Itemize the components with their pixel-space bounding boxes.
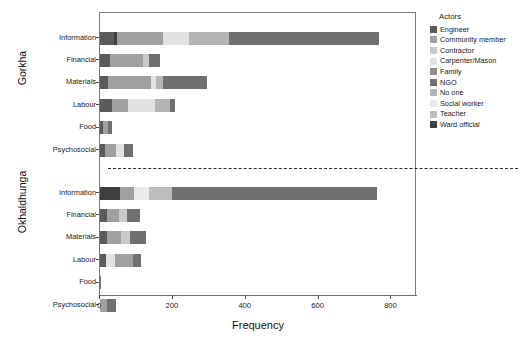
y-tick-label-food: Food [4, 277, 96, 286]
bar-okhaldhunga-food [100, 276, 101, 289]
legend-item-community-member[interactable]: Community member [430, 35, 518, 46]
x-axis-line [99, 295, 417, 296]
bar-segment-carpenter-mason [163, 32, 189, 45]
legend-swatch-icon [430, 47, 437, 54]
legend-swatch-icon [430, 68, 437, 75]
bar-segment-contractor [119, 209, 127, 222]
legend-items: EngineerCommunity memberContractorCarpen… [430, 24, 518, 130]
bar-segment-engineer [100, 99, 112, 112]
bar-okhaldhunga-information [100, 187, 377, 200]
bar-segment-ngo [163, 76, 207, 89]
legend-label: Community member [440, 36, 506, 43]
bar-segment-social-worker [134, 187, 149, 200]
bar-segment-ngo [133, 254, 141, 267]
bar-gorkha-materials [100, 76, 207, 89]
bar-gorkha-information [100, 32, 379, 45]
legend-swatch-icon [430, 36, 437, 43]
legend-item-contractor[interactable]: Contractor [430, 45, 518, 56]
legend-item-family[interactable]: Family [430, 66, 518, 77]
bar-segment-carpenter-mason [106, 254, 115, 267]
legend-swatch-icon [430, 26, 437, 33]
bar-okhaldhunga-psychosocial [100, 299, 116, 312]
bar-segment-ngo [124, 144, 133, 157]
legend-item-ngo[interactable]: NGO [430, 77, 518, 88]
bar-segment-engineer [100, 76, 108, 89]
legend-swatch-icon [430, 79, 437, 86]
bar-segment-teacher [149, 187, 172, 200]
legend-label: Contractor [440, 47, 474, 54]
x-tick-mark [99, 295, 100, 299]
x-axis-title: Frequency [99, 319, 417, 331]
legend-swatch-icon [430, 58, 437, 65]
bar-gorkha-labour [100, 99, 175, 112]
x-tick-label-200: 200 [166, 301, 179, 310]
bar-segment-community-member [112, 99, 128, 112]
legend-label: NGO [440, 79, 457, 86]
bar-segment-community-member [117, 32, 163, 45]
y-axis: InformationFinancialMaterialsLabourFoodP… [0, 12, 96, 295]
legend-item-ward-official[interactable]: Ward official [430, 119, 518, 130]
legend-swatch-icon [430, 100, 437, 107]
legend-item-teacher[interactable]: Teacher [430, 109, 518, 120]
y-tick-label-psychosocial: Psychosocial [4, 145, 96, 154]
bar-segment-community-member [107, 231, 121, 244]
bar-okhaldhunga-financial [100, 209, 140, 222]
x-tick-label-800: 800 [384, 301, 397, 310]
facet-label-okhaldhunga: Okhaldhunga [16, 159, 28, 245]
bar-segment-ngo [170, 99, 175, 112]
legend-title: Actors [439, 12, 518, 21]
bar-segment-engineer [100, 231, 107, 244]
bar-gorkha-food [100, 121, 112, 134]
x-tick-mark [172, 295, 173, 299]
plot-area [99, 12, 416, 295]
legend: Actors EngineerCommunity memberContracto… [430, 12, 518, 130]
bar-segment-contractor [121, 231, 130, 244]
bar-segment-ward-official [100, 187, 120, 200]
bar-segment-ngo [229, 32, 378, 45]
facet-divider [108, 168, 518, 169]
bars-container [100, 13, 415, 295]
legend-label: Ward official [440, 121, 480, 128]
bar-segment-community-member [115, 254, 132, 267]
bar-segment-carpenter-mason [128, 99, 155, 112]
legend-item-no-one[interactable]: No one [430, 88, 518, 99]
bar-segment-community-member [107, 209, 120, 222]
bar-gorkha-psychosocial [100, 144, 133, 157]
legend-label: Social worker [440, 100, 484, 107]
bar-okhaldhunga-materials [100, 231, 146, 244]
x-tick-mark [245, 295, 246, 299]
legend-label: Carpenter/Mason [440, 57, 496, 64]
x-tick-label-400: 400 [238, 301, 251, 310]
bar-okhaldhunga-labour [100, 254, 141, 267]
bar-segment-no-one [189, 32, 230, 45]
bar-segment-no-one [156, 76, 163, 89]
bar-segment-community-member [120, 187, 134, 200]
y-tick-label-food: Food [4, 122, 96, 131]
bar-segment-no-one [155, 99, 170, 112]
bar-segment-ngo [100, 276, 101, 289]
legend-item-social-worker[interactable]: Social worker [430, 98, 518, 109]
chart-figure: InformationFinancialMaterialsLabourFoodP… [0, 0, 520, 346]
bar-segment-ngo [130, 231, 146, 244]
legend-label: Teacher [440, 110, 466, 117]
legend-label: No one [440, 89, 464, 96]
x-tick-label-0: 0 [97, 301, 101, 310]
legend-label: Engineer [440, 26, 469, 33]
facet-label-gorkha: Gorkha [16, 33, 28, 103]
legend-swatch-icon [430, 111, 437, 118]
bar-segment-ngo [108, 121, 112, 134]
bar-segment-carpenter-mason [116, 144, 124, 157]
x-tick-mark [390, 295, 391, 299]
legend-swatch-icon [430, 89, 437, 96]
bar-segment-ngo [127, 209, 140, 222]
bar-segment-ngo [107, 299, 116, 312]
bar-segment-community-member [110, 54, 143, 67]
bar-segment-ngo [149, 54, 160, 67]
legend-swatch-icon [430, 121, 437, 128]
bar-segment-community-member [105, 144, 116, 157]
bar-segment-engineer [100, 54, 110, 67]
legend-label: Family [440, 68, 462, 75]
legend-item-carpenter-mason[interactable]: Carpenter/Mason [430, 56, 518, 67]
y-tick-label-psychosocial: Psychosocial [4, 300, 96, 309]
legend-item-engineer[interactable]: Engineer [430, 24, 518, 35]
